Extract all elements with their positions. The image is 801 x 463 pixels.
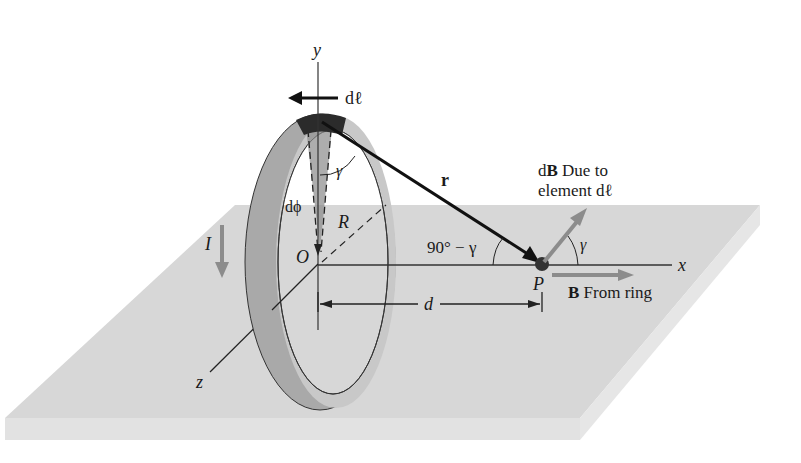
- dB-label-line2: element dℓ: [538, 181, 613, 200]
- dB-label-line1: dB Due to: [538, 161, 608, 180]
- dl-vector-head: [288, 91, 302, 105]
- dl-label: dℓ: [345, 88, 363, 108]
- gamma-label-top: γ: [336, 162, 343, 180]
- dphi-label: dϕ: [285, 198, 301, 216]
- B-label: B From ring: [568, 283, 653, 302]
- complement-angle-label: 90° − γ: [427, 238, 477, 257]
- distance-label: d: [424, 294, 434, 314]
- z-axis-label: z: [195, 372, 203, 392]
- r-vector-label: r: [441, 170, 449, 190]
- ring-field-diagram: y x z O P R d I dℓ dϕ r γ 90° − γ γ dB D…: [0, 0, 801, 463]
- current-label: I: [204, 234, 212, 254]
- y-axis-label: y: [311, 40, 321, 60]
- ground-plane-edge: [5, 418, 580, 440]
- gamma-label-P: γ: [580, 236, 587, 254]
- radius-label: R: [337, 212, 349, 232]
- x-axis-label: x: [677, 255, 686, 275]
- origin-label: O: [296, 247, 309, 267]
- point-P-label: P: [532, 274, 544, 294]
